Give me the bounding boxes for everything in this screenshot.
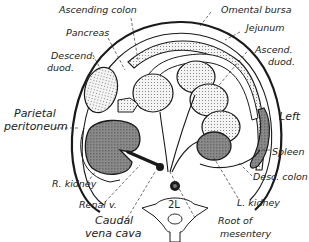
label-ascending-duodenum-2: duod. (268, 56, 295, 67)
label-l-kidney: L. kidney (237, 197, 280, 208)
right-kidney (85, 120, 140, 174)
label-mesentery: mesentery (220, 228, 271, 239)
label-spleen: Spleen (272, 146, 304, 157)
label-descending-duodenum-2: duod. (47, 62, 74, 73)
caudal-vena-cava-vessel (156, 163, 164, 171)
label-ascending-duodenum-1: Ascend. (255, 44, 293, 55)
loop-center (133, 74, 173, 112)
label-desc-colon: Desc. colon (253, 171, 308, 182)
label-pancreas: Pancreas (66, 27, 109, 38)
label-jejunum: Jejunum (246, 22, 285, 33)
label-r-kidney: R. kidney (52, 178, 96, 189)
label-omental-bursa: Omental bursa (221, 4, 292, 15)
label-caudal: Caudal (95, 215, 133, 227)
label-vertebra: 2L (168, 199, 180, 210)
label-parietal-2: peritoneum (4, 121, 68, 133)
label-ascending-colon: Ascending colon (59, 4, 137, 15)
label-parietal-1: Parietal (14, 108, 56, 120)
descending-duodenum (80, 64, 123, 117)
label-descending-duodenum-1: Descend. (51, 50, 95, 61)
renal-vein (128, 152, 158, 165)
label-vena-cava: vena cava (85, 228, 142, 240)
left-kidney (197, 132, 231, 160)
label-renal-v: Renal v. (79, 199, 117, 210)
label-left: Left (279, 111, 300, 123)
label-root-of: Root of (218, 215, 252, 226)
